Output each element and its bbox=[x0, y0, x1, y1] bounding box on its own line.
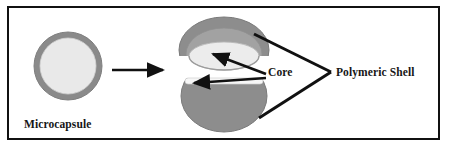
figure-container: Microcapsule Core Polymeric Shell bbox=[0, 0, 449, 155]
microcapsule-cross-section bbox=[34, 32, 102, 100]
label-polymeric-shell: Polymeric Shell bbox=[336, 66, 414, 78]
label-microcapsule: Microcapsule bbox=[24, 118, 91, 130]
label-core: Core bbox=[268, 66, 292, 78]
bracket-lower-arm bbox=[259, 72, 331, 118]
microcapsule-core-fill bbox=[40, 38, 96, 94]
